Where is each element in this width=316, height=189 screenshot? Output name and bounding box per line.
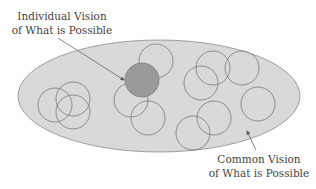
individual-vision-label-line2: of What is Possible (12, 24, 112, 36)
common-vision-label-line2: of What is Possible (209, 167, 309, 179)
vision-diagram: Individual Vision of What is Possible Co… (0, 0, 316, 189)
individual-vision-label-line1: Individual Vision (17, 10, 107, 22)
common-vision-ellipse (18, 40, 300, 152)
highlighted-individual-vision-circle (125, 63, 159, 97)
common-vision-label-line1: Common Vision (217, 153, 301, 165)
